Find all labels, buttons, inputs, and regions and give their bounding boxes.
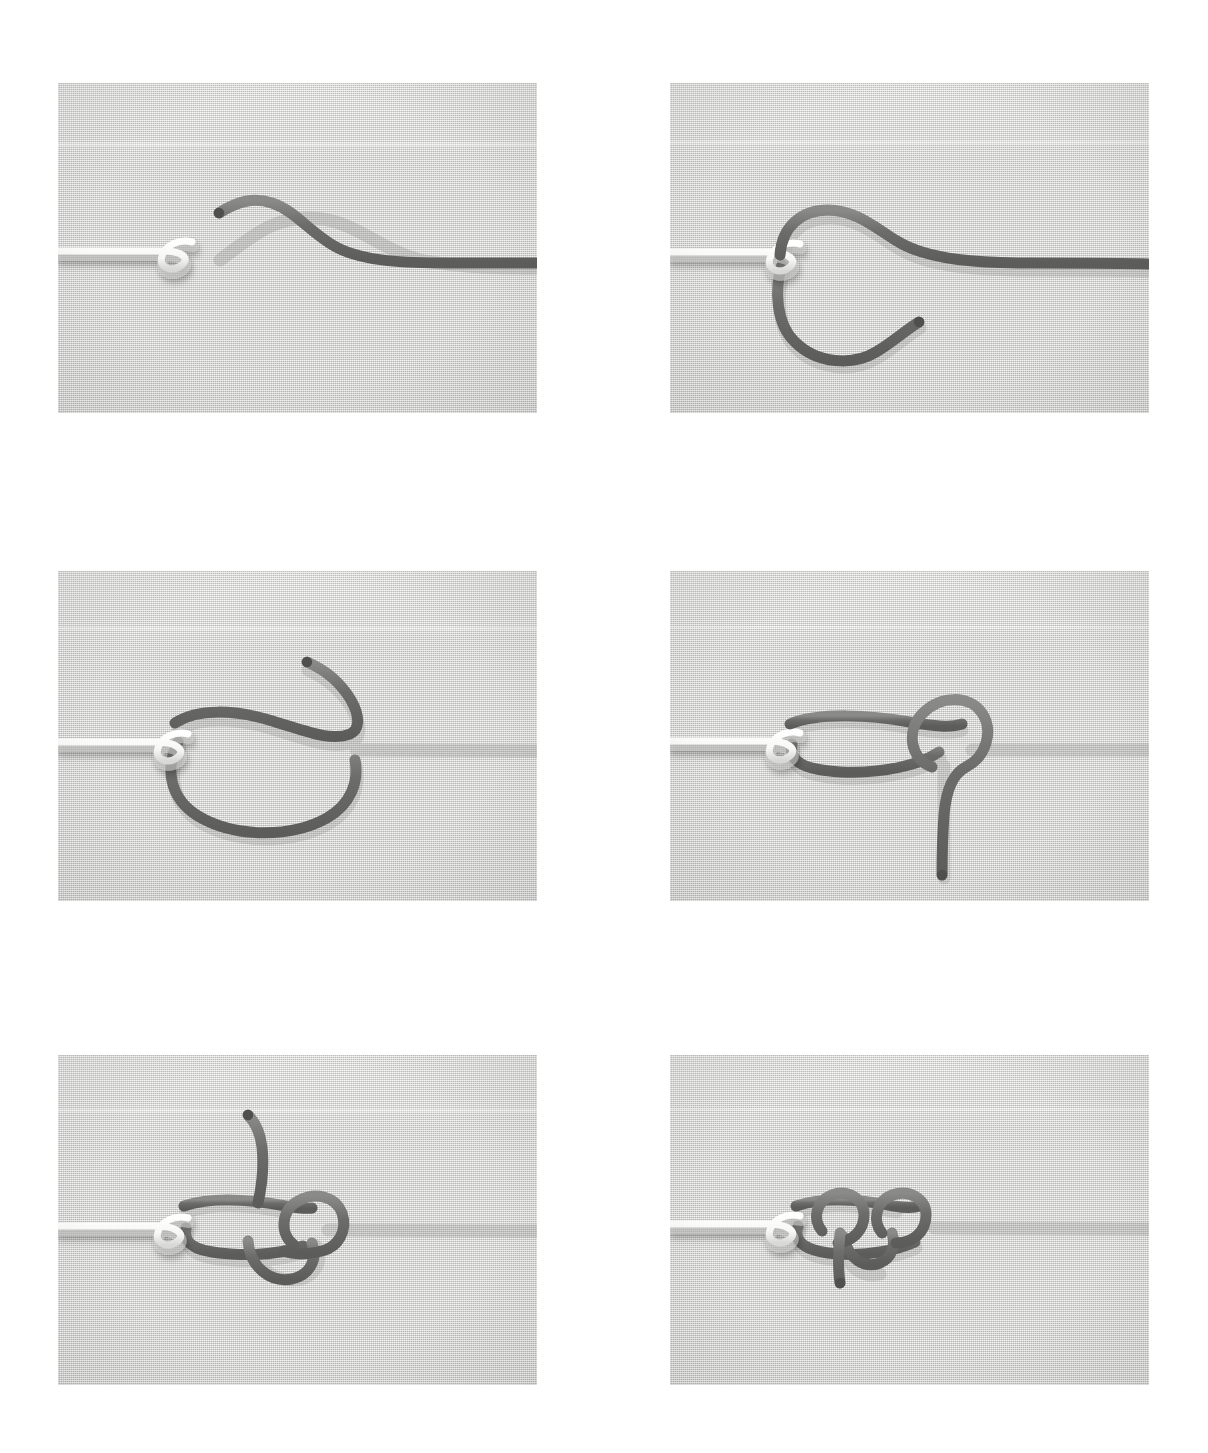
- knot-step-photo-2: 2: [670, 83, 1149, 413]
- knot-step-photo-5: 5: [58, 1055, 537, 1385]
- knot-step-photo-3: 3: [58, 571, 537, 901]
- knot-sequence-grid: 1: [0, 0, 1208, 1453]
- knot-diagram-1: [58, 83, 537, 413]
- knot-diagram-3: [58, 571, 537, 901]
- knot-diagram-2: [670, 83, 1149, 413]
- knot-diagram-5: [58, 1055, 537, 1385]
- knot-step-photo-4: 4: [670, 571, 1149, 901]
- knot-step-photo-1: 1: [58, 83, 537, 413]
- white-cord-1: [58, 241, 193, 274]
- knot-step-photo-6: 6: [670, 1055, 1149, 1385]
- white-cord-3: [58, 733, 189, 766]
- knot-diagram-4: [670, 571, 1149, 901]
- white-cord-5: [58, 1217, 189, 1250]
- dark-cord-loop-3: [171, 742, 356, 833]
- white-cord-6: [670, 1215, 801, 1248]
- knot-diagram-6: [670, 1055, 1149, 1385]
- white-cord-4: [670, 732, 801, 765]
- dark-cord-tail-6: [835, 1233, 845, 1288]
